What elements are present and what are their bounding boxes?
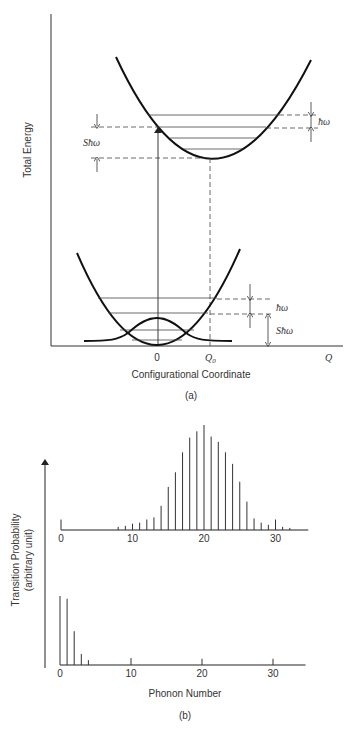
lower-s-hbar-omega-label: Sħω [276,325,293,336]
energy-axis-label: Total Energy [22,122,33,178]
probability-axis-label-line2: (arbitrary unit) [23,529,34,591]
panel-a-caption: (a) [185,390,197,401]
x-tick-q: Q [325,352,333,363]
coordinate-axis-label: Configurational Coordinate [132,369,251,380]
lower-spectrum-tick-label: 10 [125,668,137,679]
panel-b-caption: (b) [179,710,191,721]
upper-spectrum-tick-label: 10 [127,533,139,544]
spectrum-large-s: 0102030 [58,425,308,544]
upper-hbar-omega-label: ħω [318,116,330,127]
phonon-axis-label: Phonon Number [149,688,222,699]
panel-a: Total Energy Sħω ħω [22,14,343,401]
ground-state-parabola [77,249,240,345]
figure-canvas: Total Energy Sħω ħω [0,0,351,734]
x-tick-zero: 0 [154,352,160,363]
spectrum-small-s: 0102030 [57,596,305,679]
lower-spectrum-tick-label: 0 [57,668,63,679]
lower-spectrum-tick-label: 30 [267,668,279,679]
upper-spectrum-tick-label: 20 [198,533,210,544]
excited-state-parabola [116,57,311,159]
lower-hbar-omega-label: ħω [276,302,288,313]
probability-axis-label-line1: Transition Probability [10,513,21,606]
upper-spectrum-tick-label: 30 [270,533,282,544]
panel-b: Transition Probability (arbitrary unit) … [10,425,308,721]
lower-spectrum-tick-label: 20 [196,668,208,679]
upper-s-hbar-omega-label: Sħω [83,137,100,148]
upper-spectrum-tick-label: 0 [58,533,64,544]
x-tick-q0: Q0 [205,352,216,365]
